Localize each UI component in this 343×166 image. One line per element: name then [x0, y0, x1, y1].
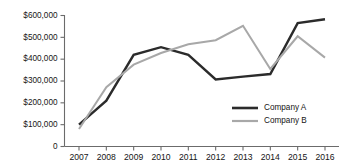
x-axis-tick-label: 2008 [97, 152, 116, 162]
x-axis-tick-labels: 2007200820092010201120122013201420152016 [69, 152, 334, 162]
x-axis-tick-label: 2012 [206, 152, 225, 162]
y-axis-tick-label: $500,000 [23, 33, 58, 42]
y-axis-ticks [61, 16, 65, 147]
x-axis-tick-label: 2013 [233, 152, 252, 162]
x-axis-tick-label: 2014 [261, 152, 280, 162]
y-axis-tick-label: $200,000 [23, 98, 58, 107]
chart-legend: Company ACompany B [232, 103, 307, 125]
legend-label-company-b: Company B [264, 116, 307, 125]
y-axis-group [61, 15, 65, 147]
y-axis-tick-label: $100,000 [23, 120, 58, 129]
y-axis-tick-label: 0 [53, 142, 58, 151]
legend-label-company-a: Company A [264, 103, 307, 112]
chart-canvas: 0$100,000$200,000$300,000$400,000$500,00… [0, 0, 343, 166]
y-axis-tick-label: $600,000 [23, 11, 58, 20]
y-axis-tick-labels: 0$100,000$200,000$300,000$400,000$500,00… [23, 11, 58, 151]
x-axis-tick-label: 2016 [315, 152, 334, 162]
x-axis-tick-label: 2010 [151, 152, 170, 162]
y-axis-tick-label: $400,000 [23, 54, 58, 63]
x-axis-tick-label: 2015 [288, 152, 307, 162]
x-axis-tick-label: 2009 [124, 152, 143, 162]
data-series-group [79, 19, 325, 129]
y-axis-tick-label: $300,000 [23, 76, 58, 85]
line-chart: 0$100,000$200,000$300,000$400,000$500,00… [0, 0, 343, 166]
x-axis-group [65, 147, 340, 151]
x-axis-tick-label: 2007 [69, 152, 88, 162]
x-axis-ticks [79, 147, 325, 151]
x-axis-tick-label: 2011 [179, 152, 198, 162]
